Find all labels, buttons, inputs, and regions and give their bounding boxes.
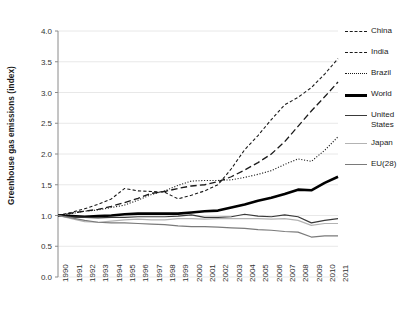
x-axis-tick-label: 1994 xyxy=(115,264,124,282)
x-axis-tick-label: 1992 xyxy=(88,264,97,282)
x-axis-tick-label: 2002 xyxy=(221,264,230,282)
y-axis-tick-label: 0.5 xyxy=(26,242,52,251)
legend-swatch-icon xyxy=(345,26,367,38)
y-axis-tick-label: 4.0 xyxy=(26,27,52,36)
legend-swatch-icon xyxy=(345,47,367,59)
legend-label: India xyxy=(371,47,388,57)
legend-item-eu-28-[interactable]: EU(28) xyxy=(345,159,419,171)
x-axis-tick-label: 2001 xyxy=(208,264,217,282)
y-axis-tick-label: 1.5 xyxy=(26,180,52,189)
legend-label: Brazil xyxy=(371,68,391,78)
x-axis-tick-label: 1999 xyxy=(181,264,190,282)
legend-line-sample xyxy=(345,115,367,116)
y-axis-tick-label: 3.5 xyxy=(26,57,52,66)
x-axis-tick-label: 1997 xyxy=(155,264,164,282)
x-axis-tick-label: 1990 xyxy=(61,264,70,282)
y-axis-tick-label: 0.0 xyxy=(26,273,52,282)
legend-line-sample xyxy=(345,143,367,144)
x-axis-tick-label: 2003 xyxy=(235,264,244,282)
legend-line-sample xyxy=(345,52,367,53)
x-axis-tick-label: 2007 xyxy=(288,264,297,282)
x-axis-tick-label: 1995 xyxy=(128,264,137,282)
legend-label: Japan xyxy=(371,138,393,148)
legend-swatch-icon xyxy=(345,159,367,171)
legend-item-brazil[interactable]: Brazil xyxy=(345,68,419,80)
x-axis-tick-label: 1993 xyxy=(101,264,110,282)
chart-legend: ChinaIndiaBrazilWorldUnited StatesJapanE… xyxy=(345,26,419,180)
legend-line-sample xyxy=(345,73,367,74)
legend-item-united-states[interactable]: United States xyxy=(345,110,419,129)
legend-swatch-icon xyxy=(345,110,367,122)
x-axis-tick-label: 1991 xyxy=(75,264,84,282)
legend-item-japan[interactable]: Japan xyxy=(345,138,419,150)
x-axis-tick-label: 2008 xyxy=(301,264,310,282)
legend-line-sample xyxy=(345,31,367,32)
y-axis-tick-label: 3.0 xyxy=(26,88,52,97)
x-axis-tick-label: 2006 xyxy=(275,264,284,282)
legend-line-sample xyxy=(345,164,367,165)
legend-label: World xyxy=(371,89,392,99)
legend-swatch-icon xyxy=(345,138,367,150)
legend-label: United States xyxy=(371,110,419,129)
x-axis-tick-label: 2010 xyxy=(328,264,337,282)
x-axis-tick-label: 1998 xyxy=(168,264,177,282)
x-axis-tick-label: 2004 xyxy=(248,264,257,282)
y-axis-tick-label: 2.0 xyxy=(26,150,52,159)
greenhouse-gas-emissions-chart: Greenhouse gas emissions (index) 0.00.51… xyxy=(0,0,419,318)
legend-swatch-icon xyxy=(345,89,367,101)
y-axis-label: Greenhouse gas emissions (index) xyxy=(7,66,16,205)
x-axis-tick-label: 2000 xyxy=(195,264,204,282)
legend-item-world[interactable]: World xyxy=(345,89,419,101)
x-axis-tick-label: 2009 xyxy=(315,264,324,282)
legend-item-china[interactable]: China xyxy=(345,26,419,38)
x-axis-tick-label: 2005 xyxy=(261,264,270,282)
y-axis-tick-label: 2.5 xyxy=(26,119,52,128)
x-axis-tick-label: 1996 xyxy=(141,264,150,282)
legend-label: EU(28) xyxy=(371,159,396,169)
legend-item-india[interactable]: India xyxy=(345,47,419,59)
series-line-india xyxy=(58,82,338,215)
x-axis-tick-label: 2011 xyxy=(341,265,350,282)
y-axis-label-container: Greenhouse gas emissions (index) xyxy=(2,0,20,270)
series-line-world xyxy=(58,177,338,217)
legend-label: China xyxy=(371,26,392,36)
series-line-china xyxy=(58,59,338,216)
legend-line-sample xyxy=(345,94,367,97)
y-axis-tick-label: 1.0 xyxy=(26,211,52,220)
legend-swatch-icon xyxy=(345,68,367,80)
